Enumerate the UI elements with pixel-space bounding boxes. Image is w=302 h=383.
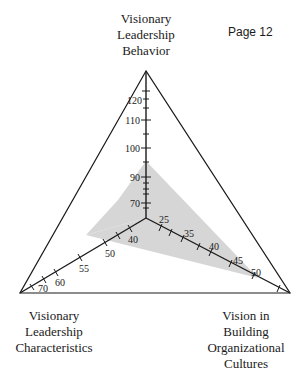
tick-label: 40 xyxy=(128,234,138,245)
svg-text:Vision in: Vision in xyxy=(222,308,270,323)
tick-label: 35 xyxy=(184,228,194,239)
svg-text:Visionary: Visionary xyxy=(29,308,80,323)
tick-label: 90 xyxy=(130,172,140,183)
tick-label: 120 xyxy=(127,95,142,106)
left-axis-title: Visionary Leadership Characteristics xyxy=(15,308,92,355)
tick-label: 70 xyxy=(38,283,48,294)
svg-text:Building: Building xyxy=(223,324,269,339)
tick-label: 25 xyxy=(159,214,169,225)
tick-label: 100 xyxy=(125,143,140,154)
tick-label: 60 xyxy=(55,277,65,288)
axis-right xyxy=(146,218,290,293)
tick-label: 70 xyxy=(130,198,140,209)
tick-label: 45 xyxy=(233,255,243,266)
tick-label: 50 xyxy=(105,248,115,259)
tick-label: 50 xyxy=(251,267,261,278)
svg-text:Cultures: Cultures xyxy=(224,356,268,371)
tick-label: 55 xyxy=(79,263,89,274)
svg-text:Characteristics: Characteristics xyxy=(15,340,92,355)
svg-text:Leadership: Leadership xyxy=(117,27,175,42)
svg-text:Visionary: Visionary xyxy=(121,11,172,26)
svg-text:Organizational: Organizational xyxy=(207,340,284,355)
right-axis-title: Vision in Building Organizational Cultur… xyxy=(207,308,284,371)
svg-text:Leadership: Leadership xyxy=(25,324,83,339)
tick-label: 40 xyxy=(209,241,219,252)
page-label: Page 12 xyxy=(228,25,273,39)
top-axis-title: Visionary Leadership Behavior xyxy=(117,11,175,58)
triangle-diagram: 120 110 100 90 70 40 50 55 60 70 25 35 4… xyxy=(0,0,302,383)
axis-left xyxy=(20,218,146,293)
svg-text:Behavior: Behavior xyxy=(122,43,170,58)
tick-label: 110 xyxy=(125,115,140,126)
